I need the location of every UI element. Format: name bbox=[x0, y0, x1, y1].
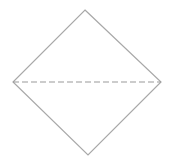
diamond-diagram bbox=[0, 0, 170, 163]
